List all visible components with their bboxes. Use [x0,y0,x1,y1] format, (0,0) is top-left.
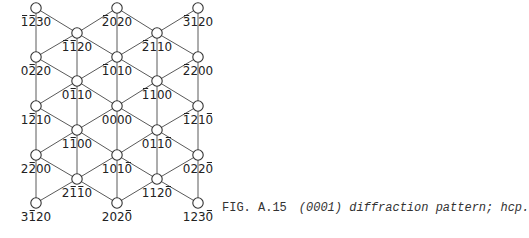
miller-index-label: 0110 [142,136,172,151]
diffraction-spot [31,198,41,208]
miller-index-label: 0220 [183,161,213,176]
miller-index-label: 1010 [102,161,132,176]
miller-index-label: 1210 [183,112,213,127]
miller-index-label: 1230 [21,14,51,29]
diffraction-spot [112,198,122,208]
miller-index-label: 0000 [102,112,132,127]
diffraction-spot [152,76,162,86]
diffraction-spot [72,28,82,38]
diffraction-spot [193,3,203,13]
miller-index-label: 0110 [62,87,92,102]
miller-index-label: 1010 [102,63,132,78]
miller-index-label: 1100 [62,136,92,151]
diffraction-spot [112,150,122,160]
diffraction-spot [72,76,82,86]
diffraction-spot [31,150,41,160]
figure-number: FIG. A.15 [222,201,287,215]
figure-caption: FIG. A.15(0001) diffraction pattern; hcp… [222,201,529,215]
diffraction-spot [152,174,162,184]
diffraction-spot [193,198,203,208]
miller-index-label: 2020 [102,209,132,224]
miller-index-label: 1210 [21,112,51,127]
diffraction-spot [72,125,82,135]
diffraction-spot [193,101,203,111]
diffraction-spot [72,174,82,184]
figure-caption-text: (0001) diffraction pattern; hcp. [299,201,529,215]
miller-index-label: 2020 [102,14,132,29]
diffraction-spot [31,52,41,62]
miller-index-label: 2200 [21,161,51,176]
diffraction-spot [152,125,162,135]
miller-index-label: 2110 [142,39,172,54]
diffraction-spot [31,101,41,111]
miller-index-label: 1120 [142,185,172,200]
miller-index-label: 3120 [21,209,51,224]
miller-index-label: 0220 [21,63,51,78]
diffraction-spot [112,101,122,111]
miller-index-label: 3120 [183,14,213,29]
miller-index-label: 1120 [62,39,92,54]
miller-index-label: 2200 [183,63,213,78]
diffraction-spot [193,150,203,160]
diffraction-spot [112,3,122,13]
miller-index-label: 2110 [62,185,92,200]
miller-index-label: 1100 [142,87,172,102]
diffraction-spot [152,28,162,38]
diffraction-spot [31,3,41,13]
diffraction-spot [193,52,203,62]
miller-index-label: 1230 [183,209,213,224]
diffraction-spot [112,52,122,62]
